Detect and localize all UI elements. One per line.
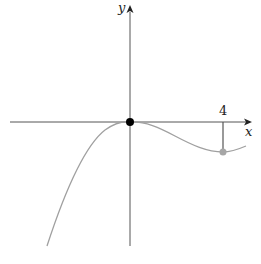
y-axis-label: y — [118, 1, 125, 14]
graph-svg — [0, 0, 261, 264]
origin-point — [126, 118, 134, 126]
x-axis-label: x — [245, 125, 252, 138]
tick-label-4: 4 — [219, 104, 227, 117]
function-curve — [47, 122, 246, 246]
minimum-point — [220, 149, 227, 156]
y-axis-arrow-icon — [127, 5, 134, 13]
function-graph: y x 4 — [0, 0, 261, 264]
